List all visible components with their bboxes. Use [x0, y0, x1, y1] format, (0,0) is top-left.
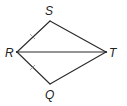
- vertex-label-q: Q: [45, 88, 54, 102]
- vertex-r-point: [16, 51, 18, 53]
- segment-tq: [50, 52, 106, 84]
- vertex-label-r: R: [5, 46, 14, 60]
- segment-rs: [17, 21, 50, 52]
- vertex-t-point: [105, 51, 107, 53]
- segment-st: [50, 21, 106, 52]
- segment-qr: [17, 52, 50, 84]
- vertex-label-t: T: [109, 46, 118, 60]
- vertex-label-s: S: [45, 4, 53, 18]
- geometry-diagram: S R T Q: [0, 0, 127, 106]
